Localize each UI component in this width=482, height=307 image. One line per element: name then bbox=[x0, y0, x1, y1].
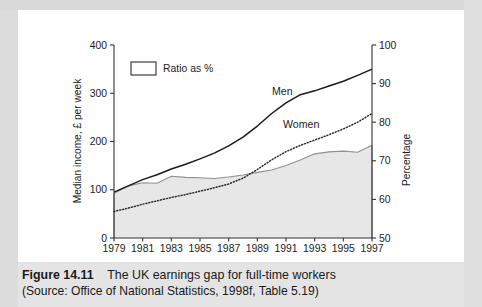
tick-label: 100 bbox=[379, 40, 397, 51]
tick-label: 200 bbox=[90, 136, 108, 147]
tick-label: 1987 bbox=[217, 243, 240, 254]
earnings-gap-chart: 0100200300400 5060708090100 197919811983… bbox=[0, 0, 482, 307]
tick-label: 1997 bbox=[360, 243, 383, 254]
x-axis-tick-labels: 1979198119831985198719891991199319951997 bbox=[102, 243, 383, 254]
tick-label: 400 bbox=[90, 40, 108, 51]
legend: Ratio as % bbox=[131, 62, 213, 75]
tick-label: 70 bbox=[379, 155, 391, 166]
tick-label: 1983 bbox=[160, 243, 183, 254]
tick-label: 90 bbox=[379, 78, 391, 89]
tick-label: 1995 bbox=[332, 243, 355, 254]
scanned-page: 0100200300400 5060708090100 197919811983… bbox=[0, 0, 482, 307]
tick-label: 100 bbox=[90, 184, 108, 195]
legend-swatch-ratio bbox=[131, 62, 156, 75]
tick-label: 1985 bbox=[188, 243, 211, 254]
legend-label-ratio: Ratio as % bbox=[163, 63, 213, 74]
y-axis-right-title: Percentage bbox=[401, 134, 412, 186]
tick-label: 1993 bbox=[303, 243, 326, 254]
caption-title: The UK earnings gap for full-time worker… bbox=[107, 268, 336, 282]
tick-label: 1989 bbox=[246, 243, 269, 254]
tick-label: 1979 bbox=[102, 243, 125, 254]
tick-label: 1981 bbox=[131, 243, 154, 254]
tick-label: 1991 bbox=[274, 243, 297, 254]
tick-label: 50 bbox=[379, 233, 391, 244]
caption-source: (Source: Office of National Statistics, … bbox=[22, 284, 452, 299]
tick-label: 0 bbox=[101, 233, 107, 244]
y-axis-left-title: Median income, £ per week bbox=[72, 78, 83, 203]
ratio-area-series bbox=[114, 145, 372, 238]
tick-label: 80 bbox=[379, 117, 391, 128]
caption-figure-number: Figure 14.11 bbox=[22, 268, 94, 282]
tick-label: 60 bbox=[379, 194, 391, 205]
y-axis-left-tick-labels: 0100200300400 bbox=[90, 40, 108, 244]
women-series-label: Women bbox=[283, 118, 319, 130]
y-axis-right-tick-labels: 5060708090100 bbox=[379, 40, 397, 244]
y-axis-left-ticks bbox=[110, 45, 114, 238]
tick-label: 300 bbox=[90, 88, 108, 99]
y-axis-right-ticks bbox=[372, 45, 376, 238]
men-series-label: Men bbox=[272, 85, 293, 97]
figure-caption: Figure 14.11 The UK earnings gap for ful… bbox=[22, 268, 452, 299]
